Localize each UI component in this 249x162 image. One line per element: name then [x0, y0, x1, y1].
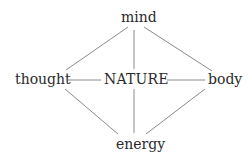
diagram-canvas: mind thought NATURE body energy — [0, 0, 249, 162]
edge-thought-energy — [65, 89, 118, 134]
node-body: body — [208, 72, 242, 86]
node-thought: thought — [15, 72, 71, 86]
node-energy: energy — [116, 137, 165, 151]
edge-mind-body — [144, 27, 212, 71]
node-nature-center: NATURE — [104, 72, 169, 86]
node-mind: mind — [121, 10, 157, 24]
edge-body-energy — [146, 89, 205, 134]
edge-mind-thought — [66, 27, 128, 70]
